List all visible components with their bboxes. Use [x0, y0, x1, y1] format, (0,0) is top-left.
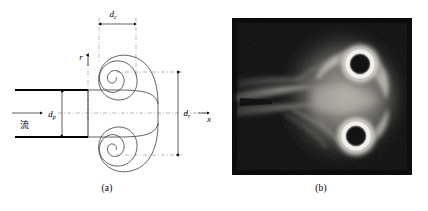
- label-dc-sub: c: [114, 14, 117, 20]
- vortex-ring-outline: [88, 55, 158, 172]
- axis-label-x: x: [206, 114, 211, 124]
- photo-canvas: [232, 18, 412, 175]
- shear-layer-upper-outer: [88, 90, 158, 113]
- label-dp: dp: [48, 109, 56, 120]
- figure-root: dc dp dr r x: [0, 0, 428, 211]
- vortex-core-spiral-upper: [99, 61, 137, 100]
- caption-panel-a: (a): [0, 183, 214, 193]
- caption-panel-b: (b): [214, 183, 428, 193]
- figure-panel-b: (b): [214, 0, 428, 211]
- dimension-dp: dp: [48, 91, 62, 136]
- label-dc: dc: [109, 9, 117, 20]
- vortex-core-spiral-lower: [99, 127, 137, 166]
- label-dr: dr: [184, 108, 192, 119]
- vortex-ring-schematic: dc dp dr r x: [0, 0, 214, 180]
- dimension-dc: dc: [99, 9, 136, 24]
- vortex-ring-photograph: [232, 18, 412, 175]
- flow-indicator: 流: [12, 113, 42, 130]
- flow-label: 流: [20, 119, 29, 130]
- dimension-dr: dr: [178, 72, 191, 155]
- shear-layer-lower-outer: [88, 113, 158, 137]
- axis-label-r: r: [79, 52, 83, 62]
- label-dr-sub: r: [188, 113, 191, 119]
- photo-grain: [232, 18, 412, 175]
- figure-panel-a: dc dp dr r x: [0, 0, 214, 211]
- label-dp-sub: p: [52, 114, 56, 120]
